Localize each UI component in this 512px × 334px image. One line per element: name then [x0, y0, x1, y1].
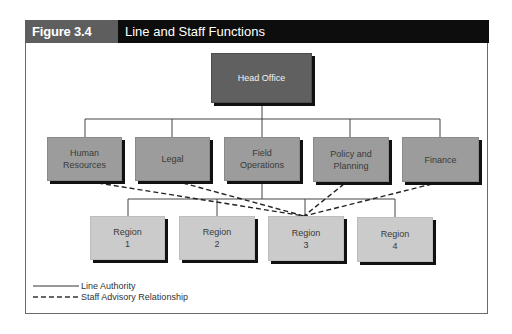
node-region-2: Region 2: [179, 216, 255, 260]
node-label: Region 1: [113, 226, 142, 250]
node-label: Finance: [424, 154, 456, 166]
node-legal: Legal: [135, 137, 210, 181]
node-region-3: Region 3: [268, 216, 344, 261]
node-label: Head Office: [238, 72, 285, 84]
node-label: Region 2: [203, 226, 232, 250]
node-region-1: Region 1: [90, 216, 165, 260]
legend-line-authority: Line Authority: [81, 281, 136, 291]
node-label: Region 4: [381, 228, 410, 252]
node-policy-planning: Policy and Planning: [313, 137, 389, 182]
node-head-office: Head Office: [211, 53, 312, 103]
node-label: Policy and Planning: [330, 148, 372, 172]
node-region-4: Region 4: [357, 217, 433, 262]
node-label: Field Operations: [240, 147, 284, 171]
node-finance: Finance: [402, 137, 479, 182]
node-human-resources: Human Resources: [47, 137, 122, 181]
node-label: Human Resources: [63, 147, 106, 171]
node-field-operations: Field Operations: [224, 137, 300, 181]
node-label: Region 3: [292, 227, 321, 251]
node-label: Legal: [161, 153, 183, 165]
legend-staff-advisory: Staff Advisory Relationship: [81, 292, 188, 302]
